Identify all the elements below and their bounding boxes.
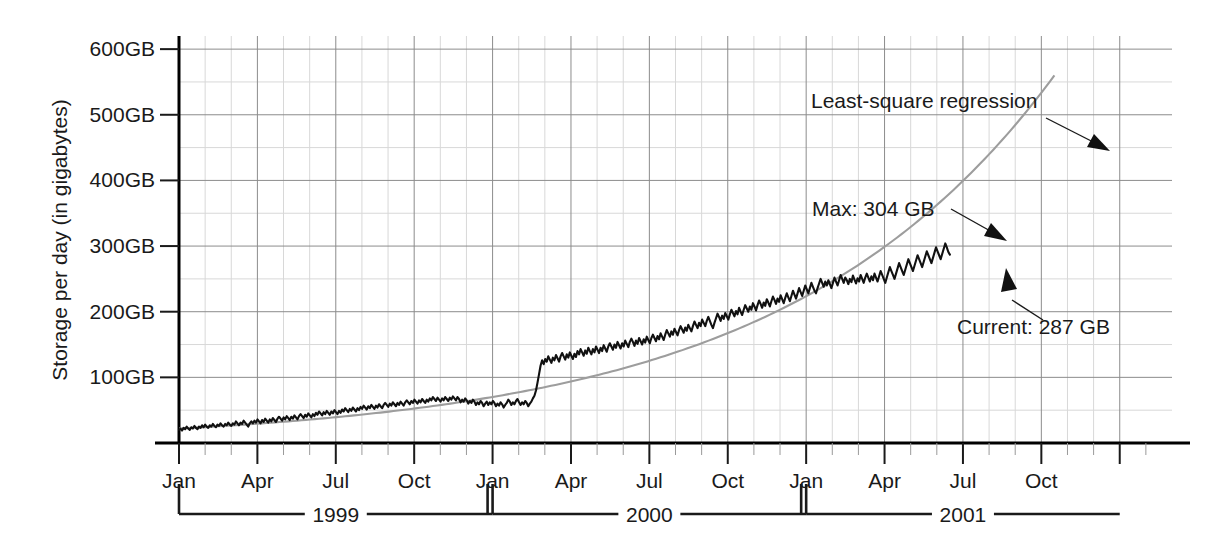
chart-canvas: 100GB200GB300GB400GB500GB600GB JanAprJul… bbox=[0, 0, 1212, 549]
y-axis-tick-label: 500GB bbox=[90, 103, 155, 126]
y-axis-ticks bbox=[160, 49, 179, 377]
y-axis-tick-label: 400GB bbox=[90, 168, 155, 191]
x-axis-tick-label: Apr bbox=[555, 469, 588, 492]
x-axis-tick-label: Jul bbox=[950, 469, 977, 492]
current-annotation-label: Current: 287 GB bbox=[957, 315, 1110, 338]
y-axis-title-group: Storage per day (in gigabytes) bbox=[48, 99, 71, 380]
x-axis-ticks bbox=[179, 443, 1146, 464]
regression-annotation-label: Least-square regression bbox=[811, 89, 1037, 112]
year-bracket-label: 2001 bbox=[940, 503, 987, 526]
x-axis-tick-label: Jul bbox=[322, 469, 349, 492]
max-annotation: Max: 304 GB bbox=[812, 197, 1007, 241]
y-axis-tick-label: 200GB bbox=[90, 300, 155, 323]
x-axis-tick-label: Oct bbox=[1025, 469, 1058, 492]
y-axis-tick-label: 100GB bbox=[90, 365, 155, 388]
storage-series-group bbox=[179, 243, 950, 430]
x-axis-tick-label: Oct bbox=[398, 469, 431, 492]
regression-curve-group bbox=[179, 75, 1054, 428]
x-axis-tick-label: Jul bbox=[636, 469, 663, 492]
x-axis-tick-label: Apr bbox=[241, 469, 274, 492]
x-axis-tick-labels: JanAprJulOctJanAprJulOctJanAprJulOct bbox=[162, 469, 1058, 492]
year-bracket-label: 2000 bbox=[626, 503, 673, 526]
y-axis-tick-labels: 100GB200GB300GB400GB500GB600GB bbox=[90, 37, 155, 388]
current-annotation-arrowhead bbox=[1001, 268, 1017, 292]
y-axis-tick-label: 600GB bbox=[90, 37, 155, 60]
y-axis-tick-label: 300GB bbox=[90, 234, 155, 257]
least-square-regression-curve bbox=[179, 75, 1054, 428]
x-axis-tick-label: Oct bbox=[711, 469, 744, 492]
storage-per-day-line bbox=[179, 243, 950, 430]
storage-per-day-chart: 100GB200GB300GB400GB500GB600GB JanAprJul… bbox=[0, 0, 1212, 549]
max-annotation-label: Max: 304 GB bbox=[812, 197, 935, 220]
max-annotation-arrowhead bbox=[984, 223, 1007, 241]
year-bracket-label: 1999 bbox=[312, 503, 359, 526]
regression-annotation-arrowhead bbox=[1087, 134, 1110, 151]
y-axis-title: Storage per day (in gigabytes) bbox=[48, 99, 71, 380]
regression-annotation: Least-square regression bbox=[811, 89, 1110, 151]
x-axis-tick-label: Apr bbox=[868, 469, 901, 492]
